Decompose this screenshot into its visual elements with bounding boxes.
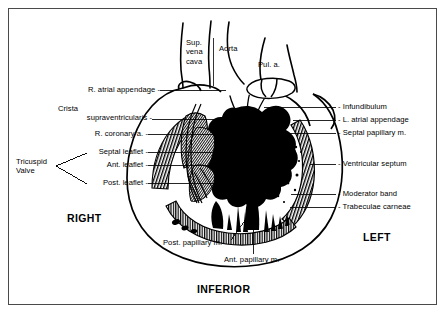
label-sup-vena-cava: Sup. vena cava xyxy=(186,38,212,66)
label-infundibulum: - Infundibulum xyxy=(338,102,387,112)
label-tricuspid-valve: Tricuspid Valve xyxy=(16,157,62,176)
label-pulmonary-artery: Pul. a. xyxy=(258,60,280,70)
label-svc-line3: cava xyxy=(186,57,212,66)
label-crista-supraventricularis: Crista supraventricularis - xyxy=(10,104,152,123)
orientation-inferior: INFERIOR xyxy=(197,283,250,295)
post-papillary-muscle xyxy=(211,201,223,229)
label-l-atrial-appendage: - L. atrial appendage xyxy=(338,115,409,125)
ra-roof xyxy=(183,85,221,92)
label-crista-line2: supraventricularis - xyxy=(10,113,152,122)
label-moderator-band: - Moderator band xyxy=(338,189,397,199)
label-ant-papillary-m: Ant. papillary m. xyxy=(224,255,279,265)
label-svc-line1: Sup. xyxy=(186,38,212,47)
label-r-atrial-appendage: R. atrial appendage - xyxy=(10,85,160,95)
pulmonary-valve-cusps xyxy=(247,78,295,98)
label-r-coronary-a: R. coronary a. - xyxy=(10,129,148,139)
central-dark-mass xyxy=(200,106,298,208)
orientation-right: RIGHT xyxy=(67,212,102,224)
label-tricuspid-line2: Valve xyxy=(16,166,62,175)
label-svc-line2: vena xyxy=(186,47,212,56)
label-tricuspid-line1: Tricuspid xyxy=(16,157,62,166)
label-septal-papillary-m: - Septal papillary m. xyxy=(338,128,406,138)
label-post-papillary-m: Post. papillary m. xyxy=(163,238,222,248)
figure-page: Sup. vena cava Aorta Pul. a. R. atrial a… xyxy=(0,0,447,315)
label-ventricular-septum: - Ventricular septum xyxy=(338,159,407,169)
left-atrial-appendage-shape xyxy=(313,94,335,129)
label-crista-line1: Crista xyxy=(10,104,152,113)
label-post-leaflet: Post. leaflet - xyxy=(10,178,148,188)
svc-left-edge xyxy=(181,23,183,88)
orientation-left: LEFT xyxy=(363,231,391,243)
label-trabeculae-carneae: - Trabeculae carneae xyxy=(338,202,411,212)
rv-cavity-structures xyxy=(200,92,302,232)
label-septal-leaflet: Septal leaflet - xyxy=(10,147,148,157)
label-aorta: Aorta xyxy=(219,44,237,54)
